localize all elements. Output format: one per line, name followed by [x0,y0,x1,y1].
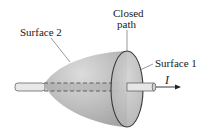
leader-surface-1 [140,64,153,70]
surface-1-label: Surface 1 [155,58,197,69]
surface-2-label: Surface 2 [20,27,62,38]
current-label: I [165,75,169,86]
leader-surface-2 [51,38,70,62]
wire-right [127,83,156,91]
wire-left [15,83,45,91]
closed-path-label-line2: path [117,19,136,30]
